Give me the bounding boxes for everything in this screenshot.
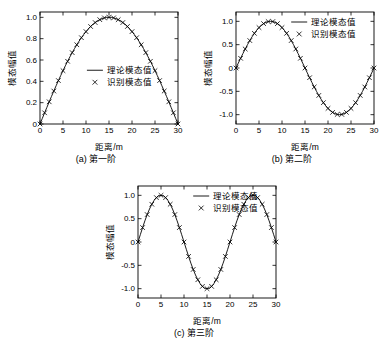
svg-text:30: 30 [370, 126, 379, 135]
svg-text:模态幅值: 模态幅值 [7, 50, 17, 86]
svg-text:-0.5: -0.5 [219, 87, 233, 96]
svg-text:模态幅值: 模态幅值 [203, 50, 213, 86]
svg-text:模态幅值: 模态幅值 [105, 224, 115, 260]
svg-text:距离/m: 距离/m [291, 142, 318, 152]
second-mode-plot: 051015202530-1.0-0.500.51.0距离/m模态幅值理论模态值… [202, 4, 382, 154]
svg-text:5: 5 [61, 126, 66, 135]
svg-text:理论模态值: 理论模态值 [213, 191, 258, 201]
chart-panel-first-mode: 05101520253000.20.40.60.81.0距离/m模态幅值理论模态… [6, 4, 186, 154]
svg-text:0.6: 0.6 [26, 56, 38, 65]
svg-text:0.2: 0.2 [26, 98, 38, 107]
svg-text:0: 0 [38, 126, 43, 135]
svg-text:10: 10 [180, 300, 189, 309]
svg-text:0: 0 [136, 300, 141, 309]
svg-text:5: 5 [257, 126, 262, 135]
svg-text:10: 10 [82, 126, 91, 135]
chart-panel-third-mode: 051015202530-1.0-0.500.51.0距离/m模态幅值理论模态值… [104, 178, 284, 328]
svg-text:1.0: 1.0 [26, 13, 38, 22]
svg-text:20: 20 [128, 126, 137, 135]
chart-panel-second-mode: 051015202530-1.0-0.500.51.0距离/m模态幅值理论模态值… [202, 4, 382, 154]
svg-text:-0.5: -0.5 [121, 261, 135, 270]
svg-text:25: 25 [249, 300, 258, 309]
svg-text:距离/m: 距离/m [193, 316, 220, 326]
svg-text:-1.0: -1.0 [121, 284, 135, 293]
svg-text:10: 10 [278, 126, 287, 135]
svg-text:理论模态值: 理论模态值 [311, 17, 356, 27]
svg-text:20: 20 [324, 126, 333, 135]
first-mode-plot: 05101520253000.20.40.60.81.0距离/m模态幅值理论模态… [6, 4, 186, 154]
svg-text:1.0: 1.0 [124, 191, 136, 200]
svg-text:0: 0 [229, 64, 234, 73]
panel-c-caption: (c) 第三阶 [104, 326, 284, 339]
svg-text:距离/m: 距离/m [95, 142, 122, 152]
svg-text:0.5: 0.5 [124, 214, 136, 223]
svg-text:1.0: 1.0 [222, 17, 234, 26]
svg-text:0.5: 0.5 [222, 40, 234, 49]
svg-text:识别模态值: 识别模态值 [213, 203, 258, 213]
svg-text:15: 15 [203, 300, 212, 309]
svg-text:理论模态值: 理论模态值 [107, 65, 152, 75]
svg-text:15: 15 [105, 126, 114, 135]
svg-text:20: 20 [226, 300, 235, 309]
svg-text:30: 30 [174, 126, 183, 135]
svg-text:0.8: 0.8 [26, 34, 38, 43]
svg-text:30: 30 [272, 300, 281, 309]
svg-text:15: 15 [301, 126, 310, 135]
svg-text:0: 0 [33, 120, 38, 129]
svg-text:25: 25 [151, 126, 160, 135]
svg-text:0: 0 [131, 238, 136, 247]
third-mode-plot: 051015202530-1.0-0.500.51.0距离/m模态幅值理论模态值… [104, 178, 284, 328]
svg-text:25: 25 [347, 126, 356, 135]
svg-text:0.4: 0.4 [26, 77, 38, 86]
svg-text:识别模态值: 识别模态值 [311, 29, 356, 39]
svg-text:0: 0 [234, 126, 239, 135]
svg-text:识别模态值: 识别模态值 [107, 77, 152, 87]
panel-a-caption: (a) 第一阶 [6, 152, 186, 165]
panel-b-caption: (b) 第二阶 [202, 152, 382, 165]
svg-text:5: 5 [159, 300, 164, 309]
svg-text:-1.0: -1.0 [219, 110, 233, 119]
